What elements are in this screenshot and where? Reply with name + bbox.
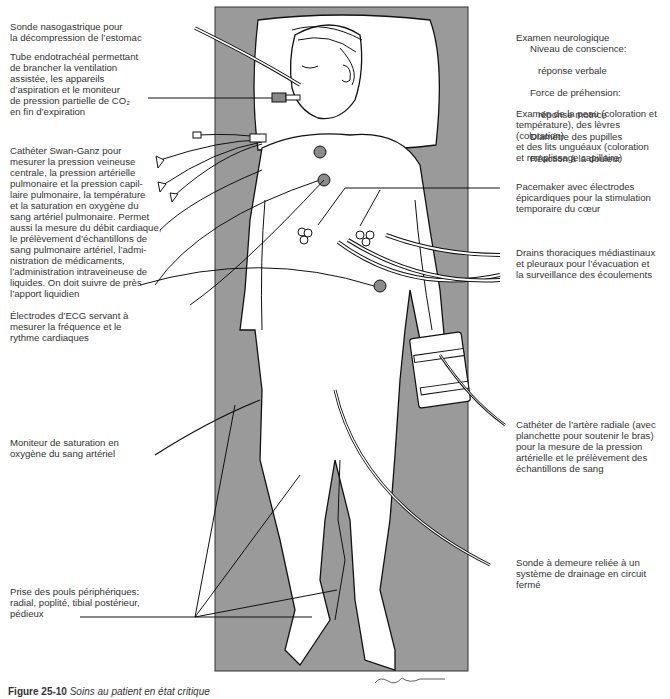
label-peripheral-pulses: Prise des pouls périphériques: radial, p… [10, 586, 140, 619]
label-radial-catheter: Cathéter de l’artère radiale (avec planc… [516, 419, 656, 474]
label-chest-drains: Drains thoraciques médiastinaux et pleur… [516, 247, 655, 280]
artist-signature [375, 678, 445, 683]
neuro-title: Examen neurologique [516, 32, 609, 43]
label-skin-exam: Examen de la peau (coloration et tempéra… [516, 108, 670, 163]
label-nasogastric-tube: Sonde nasogastrique pour la décompressio… [10, 21, 142, 43]
caption-text: Soins au patient en état critique [70, 686, 210, 697]
caption-number: Figure 25-10 [8, 686, 67, 697]
label-swan-ganz-catheter: Cathéter Swan-Ganz pour mesurer la press… [10, 145, 161, 299]
neuro-grip: Force de préhension: [516, 87, 627, 98]
neuro-verbal: réponse verbale [516, 65, 627, 76]
label-endotracheal-tube: Tube endotrachéal permettant de brancher… [10, 51, 138, 117]
endotracheal-tube [272, 93, 286, 102]
neuro-consciousness: Niveau de conscience: [516, 43, 627, 54]
figure-caption: Figure 25-10 Soins au patient en état cr… [8, 686, 210, 697]
label-ecg-electrodes: Électrodes d’ECG servant à mesurer la fr… [10, 310, 128, 343]
label-foley-catheter: Sonde à demeure reliée à un système de d… [516, 557, 646, 590]
label-oximetry-monitor: Moniteur de saturation en oxygène du san… [10, 437, 119, 459]
label-pacemaker: Pacemaker avec électrodes épicardiques p… [516, 181, 651, 214]
